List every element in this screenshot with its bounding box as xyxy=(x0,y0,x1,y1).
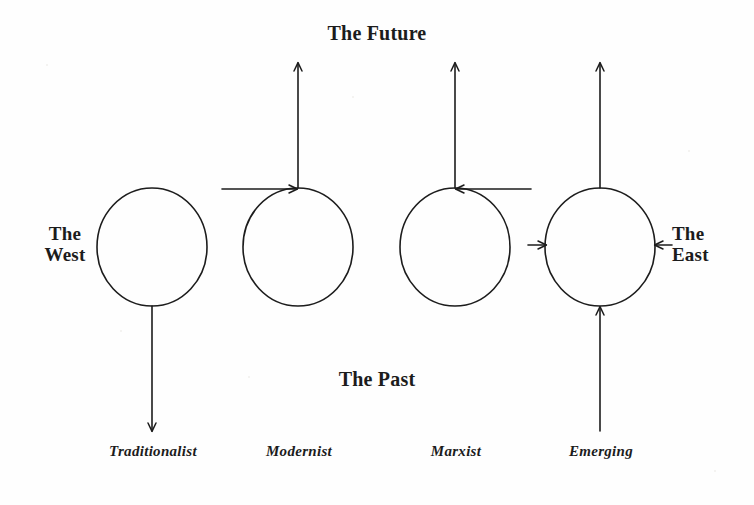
axis-label-past: The Past xyxy=(0,368,754,390)
node-label-modernist: Modernist xyxy=(240,443,358,460)
axis-label-future: The Future xyxy=(0,22,754,44)
node-circle-modernist xyxy=(243,188,353,306)
node-label-traditionalist: Traditionalist xyxy=(92,443,214,460)
node-circle-traditionalist xyxy=(97,188,207,306)
axis-label-east: The East xyxy=(672,223,748,266)
node-circle-marxist xyxy=(400,188,510,306)
node-label-marxist: Marxist xyxy=(400,443,512,460)
diagram-canvas: The Future The Past The West The East Tr… xyxy=(0,0,754,505)
axis-label-west: The West xyxy=(30,223,100,266)
diagram-graphics xyxy=(0,0,754,505)
node-label-emerging: Emerging xyxy=(540,443,662,460)
node-circle-emerging xyxy=(545,188,655,306)
